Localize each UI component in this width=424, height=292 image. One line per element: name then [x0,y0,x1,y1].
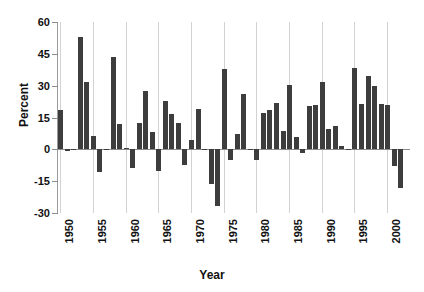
bar [169,114,174,149]
gridline-1980 [256,22,257,213]
bar [333,126,338,149]
bar [196,109,201,149]
bar [398,149,403,187]
bar [228,149,233,160]
bar [202,149,207,150]
bar [339,146,344,149]
x-tick-label: 1980 [260,219,271,263]
bar [254,149,259,160]
bar [150,132,155,149]
bar [320,82,325,149]
bar [97,149,102,171]
bar [294,137,299,150]
bar [215,149,220,205]
x-tick-label: 2000 [391,219,402,263]
bar [392,149,397,166]
bar [248,149,253,150]
x-tick-label: 1970 [195,219,206,263]
zero-baseline [57,149,410,150]
bar [163,101,168,150]
bar [137,123,142,150]
bar [91,136,96,150]
bar [111,57,116,149]
bar [281,131,286,149]
y-tick-label: -30 [2,208,50,219]
bar [104,149,109,150]
gridline-1965 [158,22,159,213]
bar [352,68,357,150]
bar [379,104,384,150]
x-axis-title: Year [0,268,424,282]
bar [222,69,227,150]
gridline-1960 [126,22,127,213]
bar [130,149,135,168]
bar [241,94,246,149]
bar [313,105,318,150]
bar [189,140,194,150]
x-tick-label: 1995 [358,219,369,263]
x-tick-label: 1960 [130,219,141,263]
bar [366,76,371,149]
bar [58,110,63,149]
bar [372,86,377,150]
x-tick-label: 1950 [64,219,75,263]
x-tick-label: 1990 [326,219,337,263]
bar [261,113,266,149]
y-tick-label: -15 [2,176,50,187]
bar [287,85,292,150]
bar [84,82,89,149]
y-tick-mark [52,213,58,214]
y-tick-label: 60 [2,17,50,28]
bar [235,134,240,149]
bar [385,105,390,150]
x-tick-label: 1965 [162,219,173,263]
bar [267,110,272,149]
x-tick-label: 1985 [293,219,304,263]
bar [274,103,279,150]
bar [326,129,331,149]
bar [117,124,122,149]
bar-chart: 604530150-15-30 Percent 1950195519601965… [0,0,424,292]
bar [71,149,76,150]
bar [346,149,351,150]
bar [182,149,187,165]
bar [307,106,312,150]
x-tick-label: 1975 [228,219,239,263]
gridline-1970 [191,22,192,213]
bar [209,149,214,184]
plot-area [57,22,410,213]
y-axis-title: Percent [17,60,31,150]
bar [359,104,364,150]
bar [156,149,161,170]
bar [78,37,83,149]
x-tick-label: 1955 [97,219,108,263]
gridline-1955 [93,22,94,213]
bar [65,149,70,151]
bar [143,91,148,149]
bar [176,123,181,150]
bar [300,149,305,152]
bar [124,148,129,149]
y-tick-label: 45 [2,49,50,60]
